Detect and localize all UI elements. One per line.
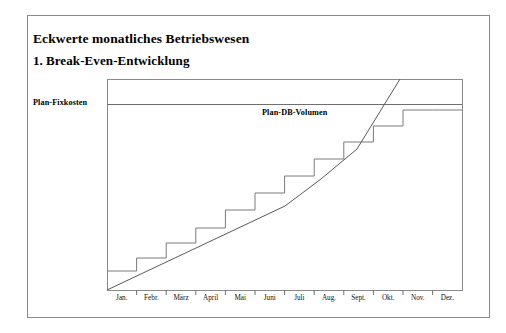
heading-block: Eckwerte monatliches Betriebswesen 1.Bre… [33, 30, 453, 69]
x-label-feb: Febr. [144, 294, 159, 302]
x-label-jan: Jan. [116, 294, 127, 302]
page-title: Eckwerte monatliches Betriebswesen [33, 30, 453, 47]
section-title: Break-Even-Entwicklung [46, 53, 190, 68]
x-axis-labels: Jan. Febr. März April Mai Juni Juli Aug.… [107, 294, 462, 308]
x-label-sep: Sept. [351, 294, 366, 302]
x-label-aug: Aug. [322, 294, 336, 302]
x-label-mar: März [173, 294, 188, 302]
x-label-nov: Nov. [411, 294, 425, 302]
x-label-dez: Dez. [441, 294, 454, 302]
x-label-okt: Okt. [382, 294, 395, 302]
x-label-jun: Juni [264, 294, 276, 302]
x-label-jul: Juli [294, 294, 304, 302]
section-heading: 1.Break-Even-Entwicklung [33, 52, 453, 69]
page-root: Eckwerte monatliches Betriebswesen 1.Bre… [0, 0, 506, 333]
x-label-apr: April [203, 294, 218, 302]
section-number: 1. [33, 53, 43, 68]
x-label-mai: Mai [234, 294, 246, 302]
series-label-plan-db-volumen: Plan-DB-Volumen [262, 108, 327, 117]
fixed-costs-axis-label: Plan-Fixkosten [33, 98, 87, 107]
